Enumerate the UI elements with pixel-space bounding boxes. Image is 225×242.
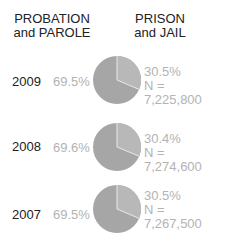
probation-parole-pct: 69.6% xyxy=(53,140,90,155)
row-2008: 2008 69.6% 30.4% N = 7,274,600 xyxy=(0,123,225,183)
prison-jail-pct: 30.5% xyxy=(144,65,225,79)
prison-jail-label: 30.5% N = 7,225,800 xyxy=(144,65,225,107)
pie-chart xyxy=(93,185,141,233)
prison-jail-pct: 30.4% xyxy=(144,132,225,146)
pie-chart xyxy=(93,56,141,104)
prison-jail-label: 30.4% N = 7,274,600 xyxy=(144,132,225,174)
total-n: N = 7,274,600 xyxy=(144,146,225,174)
year-label: 2009 xyxy=(12,74,41,89)
header-left-line1: PROBATION xyxy=(12,12,92,26)
header-prison-jail: PRISON and JAIL xyxy=(130,12,190,40)
header-left-line2: and PAROLE xyxy=(12,26,92,40)
probation-parole-pct: 69.5% xyxy=(53,74,90,89)
probation-parole-pct: 69.5% xyxy=(53,207,90,222)
header-right-line1: PRISON xyxy=(130,12,190,26)
row-2009: 2009 69.5% 30.5% N = 7,225,800 xyxy=(0,56,225,116)
prison-jail-label: 30.5% N = 7,267,500 xyxy=(144,189,225,231)
header-probation-parole: PROBATION and PAROLE xyxy=(12,12,92,40)
total-n: N = 7,225,800 xyxy=(144,79,225,107)
row-2007: 2007 69.5% 30.5% N = 7,267,500 xyxy=(0,185,225,242)
year-label: 2007 xyxy=(12,207,41,222)
year-label: 2008 xyxy=(12,139,41,154)
prison-jail-pct: 30.5% xyxy=(144,189,225,203)
total-n: N = 7,267,500 xyxy=(144,203,225,231)
pie-chart xyxy=(93,123,141,171)
header-right-line2: and JAIL xyxy=(130,26,190,40)
